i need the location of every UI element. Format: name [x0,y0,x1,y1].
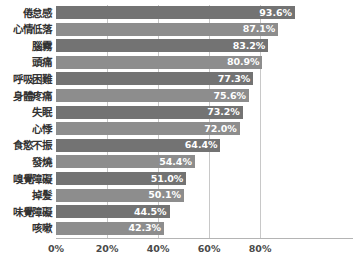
bar-value-label: 72.0% [204,124,236,134]
x-axis-line [56,238,353,239]
category-label: 頭痛 [32,57,52,68]
bar: 73.2% [56,106,243,119]
bar-row: 嗅覺障礙51.0% [56,172,352,185]
category-label: 咳嗽 [32,223,52,234]
bar-row: 倦怠感93.6% [56,6,352,19]
bar: 50.1% [56,189,184,202]
category-label: 掉髮 [32,190,52,201]
bar-row: 腦霧83.2% [56,39,352,52]
bar-value-label: 54.4% [159,157,191,167]
x-tick-label: 20% [96,243,119,255]
x-tick-label: 40% [147,243,170,255]
x-tick-label: 80% [249,243,272,255]
bar: 77.3% [56,72,253,85]
bar-row: 頭痛80.9% [56,56,352,69]
category-label: 呼吸困難 [13,73,52,84]
bar-chart: 倦怠感93.6%心情低落87.1%腦霧83.2%頭痛80.9%呼吸困難77.3%… [0,0,353,265]
bar-row: 失眠73.2% [56,106,352,119]
plot-area: 倦怠感93.6%心情低落87.1%腦霧83.2%頭痛80.9%呼吸困難77.3%… [56,5,352,238]
category-label: 腦霧 [32,40,52,51]
category-label: 心悸 [32,123,52,134]
bar: 87.1% [56,23,278,36]
bar: 42.3% [56,222,164,235]
x-tick-label: 60% [198,243,221,255]
bar: 75.6% [56,89,249,102]
bar: 93.6% [56,6,295,19]
bar-row: 掉髮50.1% [56,189,352,202]
bar: 54.4% [56,155,195,168]
category-label: 失眠 [32,107,52,118]
bar-value-label: 44.5% [134,207,166,217]
bar-value-label: 87.1% [243,24,275,34]
category-label: 身體疼痛 [13,90,52,101]
bar-row: 發燒54.4% [56,155,352,168]
bar-value-label: 64.4% [185,140,217,150]
bar-value-label: 73.2% [207,107,239,117]
category-label: 倦怠感 [23,7,52,18]
bar: 80.9% [56,56,262,69]
bar-row: 咳嗽42.3% [56,222,352,235]
bar-value-label: 42.3% [128,223,160,233]
bar: 83.2% [56,39,268,52]
bar-row: 食慾不振64.4% [56,139,352,152]
bar-rows: 倦怠感93.6%心情低落87.1%腦霧83.2%頭痛80.9%呼吸困難77.3%… [56,5,352,238]
bar-value-label: 51.0% [151,174,183,184]
bar-value-label: 50.1% [148,190,180,200]
category-label: 心情低落 [13,24,52,35]
bar: 64.4% [56,139,220,152]
category-label: 發燒 [32,156,52,167]
bar-row: 味覺障礙44.5% [56,205,352,218]
bar: 51.0% [56,172,186,185]
bar: 72.0% [56,122,240,135]
category-label: 味覺障礙 [13,206,52,217]
bar-value-label: 93.6% [259,8,291,18]
x-axis-tick-labels: 0%20%40%60%80% [56,243,352,261]
bar-row: 呼吸困難77.3% [56,72,352,85]
bar: 44.5% [56,205,170,218]
bar-value-label: 77.3% [218,74,250,84]
bar-value-label: 75.6% [213,91,245,101]
x-tick-label: 0% [48,243,64,255]
bar-value-label: 83.2% [233,41,265,51]
category-label: 食慾不振 [13,140,52,151]
bar-row: 心悸72.0% [56,122,352,135]
bar-row: 心情低落87.1% [56,23,352,36]
bar-value-label: 80.9% [227,57,259,67]
category-label: 嗅覺障礙 [13,173,52,184]
bar-row: 身體疼痛75.6% [56,89,352,102]
